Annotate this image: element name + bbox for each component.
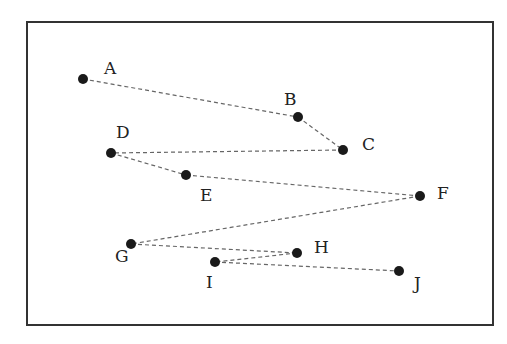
diagram-canvas: ABCDEFGHIJ — [0, 0, 507, 344]
point-label-H: H — [314, 237, 329, 257]
point-label-J: J — [412, 273, 421, 293]
point-B — [293, 112, 303, 122]
point-J — [394, 266, 404, 276]
point-label-D: D — [116, 122, 130, 142]
point-D — [106, 148, 116, 158]
point-F — [415, 191, 425, 201]
point-label-A: A — [103, 58, 117, 78]
point-label-B: B — [284, 89, 297, 109]
point-H — [292, 248, 302, 258]
point-label-G: G — [115, 246, 129, 266]
point-C — [338, 145, 348, 155]
diagram-frame — [27, 22, 493, 325]
point-label-C: C — [362, 134, 375, 154]
point-label-I: I — [206, 272, 213, 292]
point-E — [181, 170, 191, 180]
point-label-E: E — [200, 185, 212, 205]
point-I — [210, 257, 220, 267]
point-A — [78, 74, 88, 84]
point-label-F: F — [437, 183, 449, 203]
